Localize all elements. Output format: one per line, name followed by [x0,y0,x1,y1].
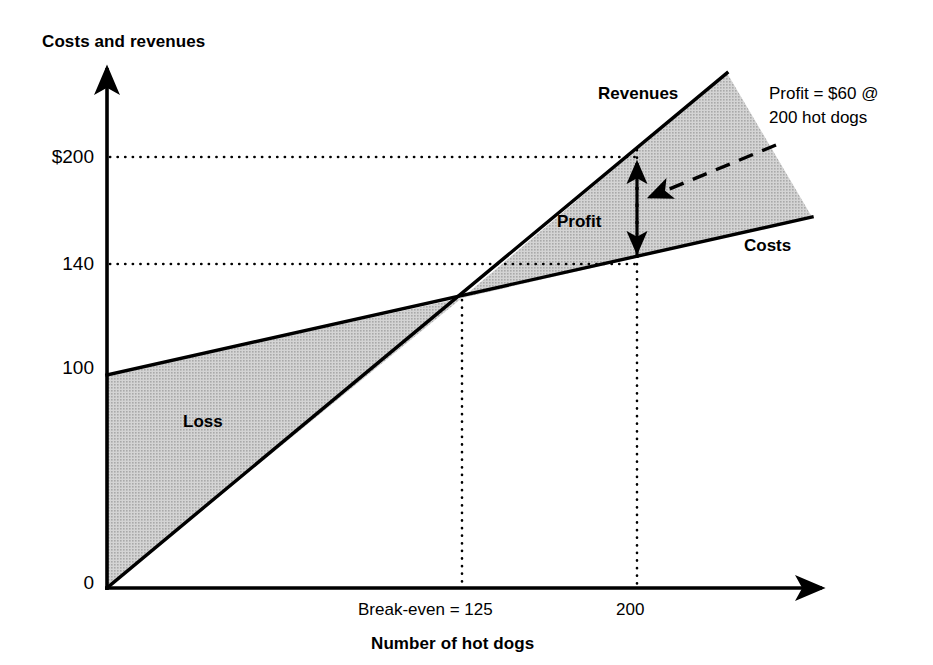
series-label-costs: Costs [744,236,791,256]
x-tick-breakeven: Break-even = 125 [358,600,493,620]
callout-line-2: 200 hot dogs [769,108,867,128]
break-even-chart: Costs and revenues Number of hot dogs $2… [0,0,933,665]
region-label-loss: Loss [183,412,223,432]
y-tick-200: $200 [32,146,94,168]
y-tick-140: 140 [32,253,94,275]
callout-line-1: Profit = $60 @ [769,84,878,104]
costs-line [107,217,812,375]
x-tick-200: 200 [616,600,644,620]
y-tick-0: 0 [32,572,94,594]
series-label-revenues: Revenues [598,84,678,104]
revenues-line [108,73,727,587]
y-axis-title: Costs and revenues [42,32,205,52]
y-tick-100: 100 [32,357,94,379]
x-axis-title: Number of hot dogs [371,634,534,654]
region-label-profit: Profit [557,212,601,232]
